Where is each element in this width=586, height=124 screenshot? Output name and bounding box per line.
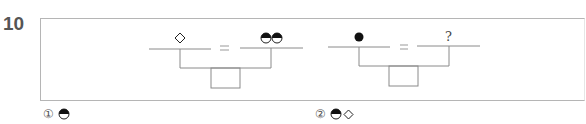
equals-sign-2 xyxy=(400,45,408,49)
equation-2 xyxy=(328,46,480,86)
balance-diagrams: ? xyxy=(0,0,586,124)
question-mark: ? xyxy=(445,29,452,44)
half-black-circle-icon xyxy=(58,108,70,120)
half-black-circle-icon xyxy=(272,33,282,43)
black-circle-icon xyxy=(355,33,364,42)
half-black-circle-icon xyxy=(261,33,271,43)
equation-1 xyxy=(149,48,303,88)
equals-sign-1 xyxy=(220,46,229,50)
white-diamond-icon xyxy=(343,109,354,120)
choice-number: ② xyxy=(315,107,326,121)
choice-1[interactable]: ① xyxy=(43,107,70,121)
white-diamond-icon xyxy=(175,33,185,43)
half-black-circle-icon xyxy=(330,108,342,120)
choice-2[interactable]: ② xyxy=(315,107,354,121)
choice-number: ① xyxy=(43,107,54,121)
